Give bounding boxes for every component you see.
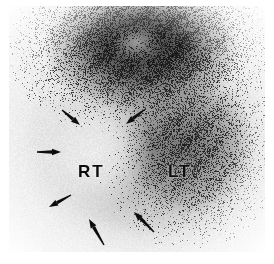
edge-vignette: [9, 6, 265, 252]
scintigram-figure: RT LT: [0, 0, 274, 264]
side-label-right: RT: [78, 163, 105, 180]
side-label-left: LT: [168, 163, 192, 180]
scan-plate: [9, 6, 265, 252]
